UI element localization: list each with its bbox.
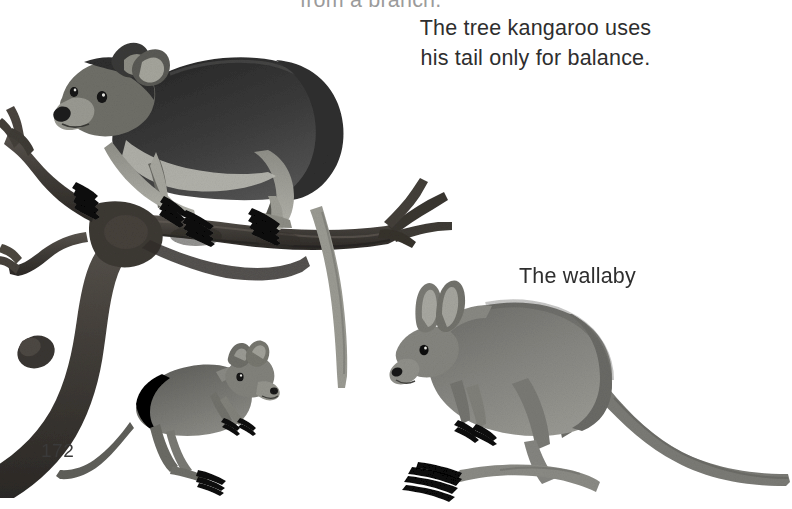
page-number: 172	[41, 440, 74, 462]
book-page: from a branch.	[0, 0, 792, 509]
tree-kangaroo-caption-line2: his tail only for balance.	[421, 46, 651, 70]
branch-right-twigs	[378, 178, 452, 248]
rat-kangaroo-eye	[236, 373, 243, 381]
eye-far	[70, 87, 78, 97]
illustration-artwork	[0, 0, 792, 509]
wallaby-eye	[419, 345, 428, 355]
tree-kangaroo-caption-line1: The tree kangaroo uses	[420, 16, 651, 40]
wallaby-illustration	[389, 280, 790, 502]
wallaby-caption: The wallaby	[519, 262, 636, 292]
tree-kangaroo-caption: The tree kangaroo useshis tail only for …	[403, 14, 668, 73]
rat-kangaroo-nose	[270, 388, 278, 395]
eye-near	[97, 91, 107, 103]
